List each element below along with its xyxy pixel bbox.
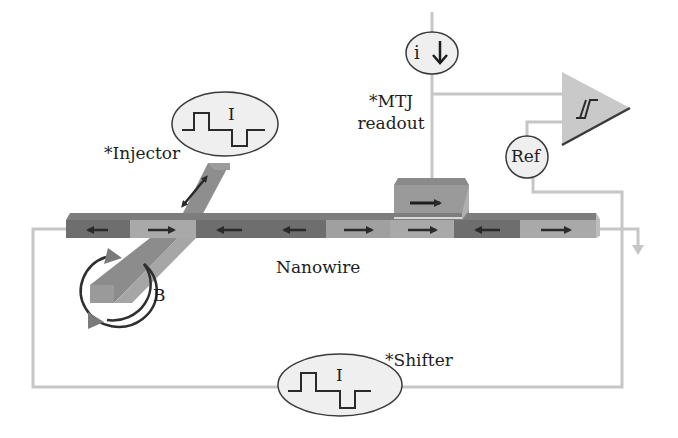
field-arrow-icon — [88, 312, 104, 329]
current-source-label: i — [414, 42, 420, 63]
mtj-label-line1: *MTJ — [356, 90, 426, 112]
nanowire-label: Nanowire — [276, 257, 360, 277]
ground-arrow-icon — [632, 245, 644, 255]
magnetic-field-label: B — [153, 285, 166, 305]
field-arrow-icon — [104, 248, 122, 264]
shifter-pulse-source — [278, 354, 402, 416]
injector-pulse-label: I — [228, 104, 235, 124]
racetrack-memory-diagram: *Injector I *MTJ readout i Ref Nanowire … — [0, 0, 678, 438]
mtj-label-line2: readout — [356, 112, 426, 134]
injector-label: *Injector — [104, 143, 180, 163]
mtj-readout-label: *MTJ readout — [356, 90, 426, 134]
nanowire — [66, 213, 600, 238]
shifter-label: *Shifter — [385, 350, 453, 370]
injector-bar-front — [90, 238, 196, 303]
reference-label: Ref — [511, 146, 540, 166]
shifter-pulse-label: I — [336, 365, 343, 385]
circuit-wires — [33, 12, 638, 387]
injector-pulse-source — [172, 92, 278, 156]
comparator-amplifier — [562, 72, 630, 145]
